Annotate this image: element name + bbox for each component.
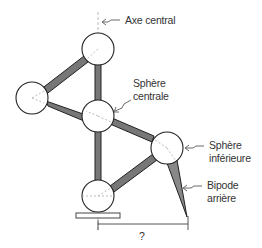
label-dimension: ? (139, 230, 145, 242)
arrow-bipod (184, 186, 202, 188)
arrow-axe-central (103, 20, 120, 22)
tube-central-lower (110, 118, 154, 142)
label-lower-sphere-2: inférieure (209, 152, 251, 164)
tube-top-left (40, 56, 88, 96)
tube-central-bottom (95, 131, 101, 181)
spheres (16, 33, 183, 212)
label-central-sphere-2: centrale (133, 90, 169, 102)
label-lower-sphere-1: Sphère (209, 139, 242, 151)
tube-left-central (46, 101, 86, 121)
label-axe-central: Axe central (125, 14, 175, 26)
label-bipod-1: Bipode (207, 179, 239, 191)
label-central-sphere-1: Sphère (133, 77, 166, 89)
tube-top-central (95, 64, 101, 102)
tube-bottom-lower (110, 154, 157, 192)
arrow-central-sphere (115, 100, 131, 111)
atomium-diagram: Axe central Sphère centrale Sphère infér… (0, 0, 262, 248)
label-bipod-2: arrière (207, 192, 236, 204)
base-plate (76, 213, 120, 218)
